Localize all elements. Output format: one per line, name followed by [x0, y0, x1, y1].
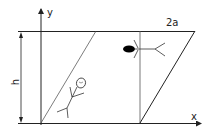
diagram-canvas: y x h 2a — [0, 0, 209, 133]
y-axis-label: y — [47, 7, 53, 18]
left-diagonal — [41, 31, 96, 123]
x-axis: x — [18, 111, 201, 124]
right-diagonal — [140, 31, 195, 123]
lying-stick-figure — [123, 40, 165, 58]
y-axis: y — [41, 7, 53, 125]
height-label: h — [10, 79, 21, 85]
width-label: 2a — [166, 17, 179, 28]
height-dimension: h — [10, 32, 23, 123]
leaning-stick-figure — [57, 77, 87, 118]
x-axis-label: x — [191, 111, 197, 122]
